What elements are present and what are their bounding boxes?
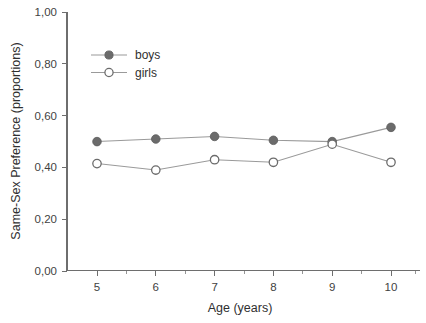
data-point-girls-8[interactable] (269, 158, 277, 166)
data-point-girls-9[interactable] (328, 140, 336, 148)
data-series-layer (93, 123, 396, 174)
data-point-girls-5[interactable] (93, 159, 101, 167)
legend-item-boys[interactable]: boys (91, 48, 160, 62)
y-tick-label-4: 0,80 (35, 58, 57, 70)
legend-marker-filled-circle-icon (105, 51, 113, 59)
legend-label-boys: boys (135, 48, 160, 62)
y-tick-label-0: 0,00 (35, 265, 57, 277)
x-tick-label-4: 9 (329, 281, 335, 293)
x-axis-label: Age (years) (208, 301, 273, 315)
data-point-boys-8[interactable] (269, 136, 278, 145)
x-tick-label-3: 8 (270, 281, 276, 293)
y-tick-label-3: 0,60 (35, 110, 57, 122)
data-point-boys-6[interactable] (152, 135, 161, 144)
chart-figure: 0,00 0,20 0,40 0,60 0,80 1,00 5 (0, 0, 426, 323)
x-tick-label-1: 6 (153, 281, 159, 293)
line-chart-canvas: 0,00 0,20 0,40 0,60 0,80 1,00 5 (0, 0, 426, 323)
x-axis-tick-labels: 5 6 7 8 9 10 (94, 281, 398, 293)
y-tick-label-5: 1,00 (35, 6, 57, 18)
y-tick-label-2: 0,40 (35, 161, 57, 173)
data-point-boys-10[interactable] (387, 123, 396, 132)
legend-marker-open-circle-icon (105, 68, 113, 76)
data-point-boys-7[interactable] (210, 132, 219, 141)
data-point-girls-6[interactable] (152, 166, 160, 174)
series-boys (93, 123, 396, 146)
x-axis-minor-ticks (126, 271, 415, 274)
series-girls (93, 140, 395, 174)
legend-item-girls[interactable]: girls (91, 66, 157, 80)
x-tick-label-5: 10 (385, 281, 398, 293)
chart-legend: boys girls (91, 48, 160, 80)
series-line-boys (97, 127, 391, 141)
data-point-boys-5[interactable] (93, 137, 102, 146)
x-tick-label-0: 5 (94, 281, 100, 293)
series-line-girls (97, 144, 391, 170)
x-tick-label-2: 7 (211, 281, 217, 293)
legend-label-girls: girls (135, 66, 157, 80)
y-axis-tick-labels: 0,00 0,20 0,40 0,60 0,80 1,00 (35, 6, 57, 277)
y-axis-ticks (62, 12, 68, 271)
data-point-girls-7[interactable] (210, 156, 218, 164)
y-axis-label: Same-Sex Preference (proportions) (9, 42, 23, 239)
y-tick-label-1: 0,20 (35, 213, 57, 225)
data-point-girls-10[interactable] (387, 158, 395, 166)
